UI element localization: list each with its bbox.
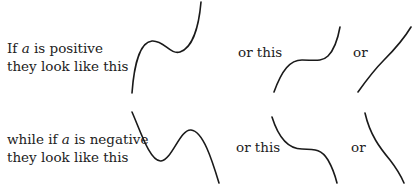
positive-curve-two-turning-points [132,2,201,93]
negative-curve-monotonic [365,113,404,183]
positive-curve-monotonic [358,27,411,92]
negative-curve-two-turning-points [132,112,219,183]
positive-curve-stationary-inflection [274,27,340,92]
negative-curve-stationary-inflection [272,117,337,183]
cubic-graphs [0,0,412,185]
